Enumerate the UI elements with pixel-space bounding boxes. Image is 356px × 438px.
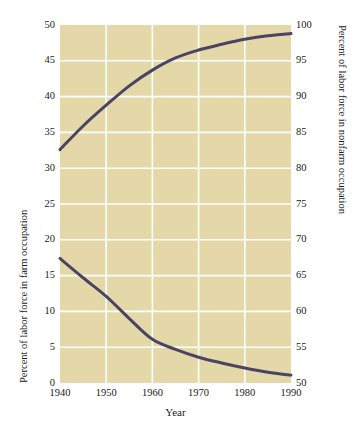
y-tick-left: 50 — [45, 20, 56, 31]
x-axis-label: Year — [60, 406, 291, 418]
plot-svg — [60, 25, 291, 383]
y-tick-left: 40 — [45, 91, 56, 102]
y-tick-left: 5 — [50, 342, 55, 353]
gridlines — [60, 25, 291, 383]
y-axis-right-label: Percent of labor force in nonfarm occupa… — [337, 25, 348, 214]
y-tick-right: 65 — [296, 270, 307, 281]
y-tick-right: 90 — [296, 91, 307, 102]
y-tick-right: 85 — [296, 127, 307, 138]
x-tick: 1950 — [96, 387, 117, 398]
y-tick-right: 100 — [296, 20, 312, 31]
y-tick-left: 35 — [45, 127, 56, 138]
y-tick-left: 25 — [45, 199, 56, 210]
y-tick-left: 10 — [45, 306, 56, 317]
y-tick-right: 60 — [296, 306, 307, 317]
y-axis-right-ticks: 50556065707580859095100 — [296, 25, 330, 383]
y-tick-right: 70 — [296, 234, 307, 245]
y-tick-left: 45 — [45, 55, 56, 66]
x-tick: 1980 — [234, 387, 255, 398]
y-tick-left: 15 — [45, 270, 56, 281]
plot-area — [60, 25, 291, 383]
chart-figure: 05101520253035404550 5055606570758085909… — [0, 0, 356, 438]
x-tick: 1970 — [188, 387, 209, 398]
y-tick-right: 80 — [296, 163, 307, 174]
y-tick-left: 20 — [45, 234, 56, 245]
y-tick-right: 75 — [296, 199, 307, 210]
x-axis-ticks: 194019501960197019801990 — [60, 387, 291, 403]
y-tick-right: 95 — [296, 55, 307, 66]
y-tick-right: 55 — [296, 342, 307, 353]
y-axis-left-label: Percent of labor force in farm occupatio… — [18, 210, 29, 383]
x-tick: 1940 — [50, 387, 71, 398]
y-tick-left: 30 — [45, 163, 56, 174]
x-tick: 1960 — [142, 387, 163, 398]
x-tick: 1990 — [281, 387, 302, 398]
